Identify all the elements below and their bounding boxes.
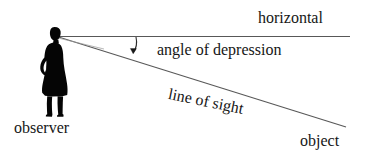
secondary-sight-ray <box>58 38 104 49</box>
label-observer: observer <box>14 120 69 136</box>
person-silhouette-icon <box>40 27 67 117</box>
label-object: object <box>300 133 339 149</box>
label-angle-of-depression: angle of depression <box>157 42 281 58</box>
angle-of-depression-diagram: horizontal angle of depression line of s… <box>0 0 368 161</box>
label-horizontal: horizontal <box>258 10 323 26</box>
angle-arc-arrow-icon <box>130 37 136 54</box>
